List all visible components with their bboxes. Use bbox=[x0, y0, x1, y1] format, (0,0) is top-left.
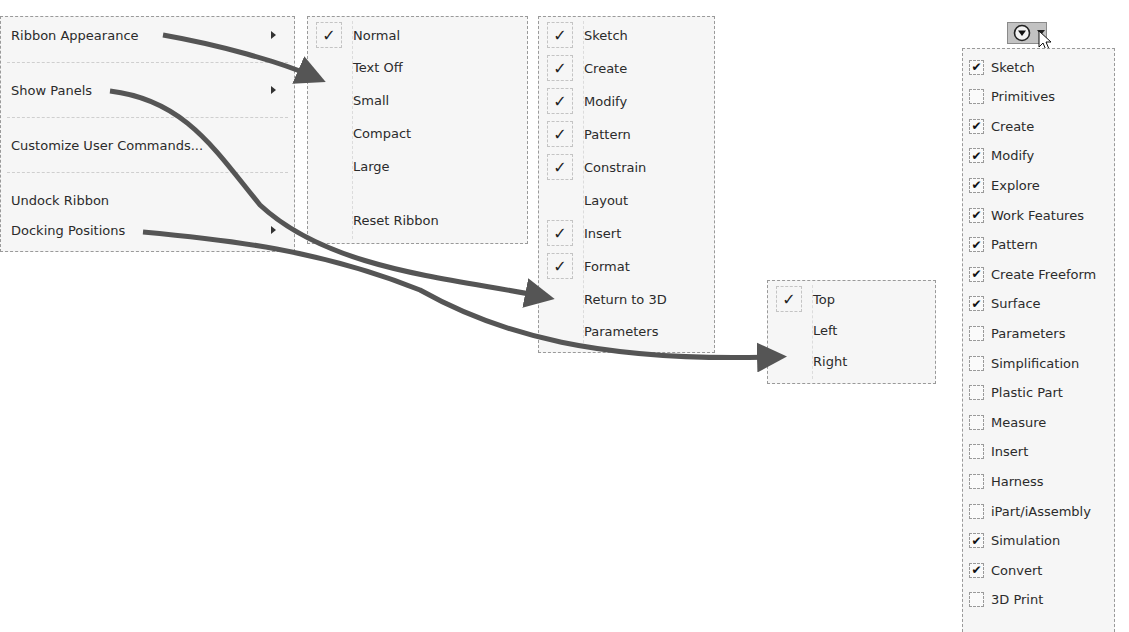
panel-toggle-item[interactable]: ✔Sketch bbox=[963, 55, 1114, 79]
checkbox-checked-icon[interactable]: ✔ bbox=[969, 119, 984, 134]
submenu-arrow-icon bbox=[271, 226, 276, 234]
panel-toggle-item[interactable]: Insert bbox=[963, 440, 1114, 464]
menu-item-label: Insert bbox=[584, 226, 621, 241]
menu-item-label: Left bbox=[813, 323, 837, 338]
panel-toggle-item[interactable]: ✔Convert bbox=[963, 558, 1114, 582]
menu-item-label: Top bbox=[813, 292, 835, 307]
checkbox-checked-icon[interactable]: ✔ bbox=[969, 148, 984, 163]
menu-item-undock-ribbon[interactable]: Undock Ribbon bbox=[1, 188, 294, 212]
checkbox-unchecked-icon[interactable] bbox=[969, 504, 984, 519]
menu-item-reset-ribbon[interactable]: Reset Ribbon bbox=[308, 208, 527, 232]
menu-item-label: Layout bbox=[584, 193, 628, 208]
panel-toggle-label: Measure bbox=[991, 415, 1046, 430]
panel-toggle-item[interactable]: 3D Print bbox=[963, 588, 1114, 612]
circle-down-arrow-icon bbox=[1013, 24, 1031, 42]
menu-item-constrain[interactable]: Constrain bbox=[539, 155, 714, 179]
panel-visibility-dropdown: ✔SketchPrimitives✔Create✔Modify✔Explore✔… bbox=[962, 48, 1115, 632]
panel-toggle-label: Create Freeform bbox=[991, 267, 1096, 282]
menu-item-compact[interactable]: Compact bbox=[308, 121, 527, 145]
menu-item-format[interactable]: Format bbox=[539, 254, 714, 278]
panel-toggle-item[interactable]: Parameters bbox=[963, 321, 1114, 345]
menu-item-return-to-3d[interactable]: Return to 3D bbox=[539, 287, 714, 311]
menu-item-label: Ribbon Appearance bbox=[11, 28, 139, 43]
checkbox-checked-icon[interactable]: ✔ bbox=[969, 237, 984, 252]
ribbon-appearance-submenu: ✓ Normal Text Off Small Compact Large Re… bbox=[307, 16, 528, 244]
panel-toggle-label: Parameters bbox=[991, 326, 1065, 341]
panel-toggle-label: 3D Print bbox=[991, 592, 1043, 607]
panel-toggle-label: Sketch bbox=[991, 60, 1035, 75]
panel-toggle-item[interactable]: Harness bbox=[963, 469, 1114, 493]
menu-item-label: Parameters bbox=[584, 324, 658, 339]
panel-toggle-item[interactable]: Measure bbox=[963, 410, 1114, 434]
panel-toggle-item[interactable]: Simplification bbox=[963, 351, 1114, 375]
menu-item-left[interactable]: Left bbox=[768, 318, 935, 342]
menu-item-label: Customize User Commands... bbox=[11, 138, 203, 153]
checkbox-unchecked-icon[interactable] bbox=[969, 89, 984, 104]
checkbox-unchecked-icon[interactable] bbox=[969, 444, 984, 459]
panel-toggle-item[interactable]: ✔Simulation bbox=[963, 529, 1114, 553]
panel-toggle-label: Insert bbox=[991, 444, 1028, 459]
menu-item-large[interactable]: Large bbox=[308, 154, 527, 178]
menu-separator bbox=[7, 117, 288, 118]
checkbox-unchecked-icon[interactable] bbox=[969, 326, 984, 341]
menu-item-layout[interactable]: Layout bbox=[539, 188, 714, 212]
menu-item-sketch[interactable]: Sketch bbox=[539, 23, 714, 47]
checkbox-unchecked-icon[interactable] bbox=[969, 474, 984, 489]
panel-toggle-label: Create bbox=[991, 119, 1034, 134]
checkbox-checked-icon[interactable]: ✔ bbox=[969, 60, 984, 75]
menu-item-label: Show Panels bbox=[11, 83, 92, 98]
menu-item-label: Compact bbox=[353, 126, 411, 141]
menu-item-label: Modify bbox=[584, 94, 627, 109]
checkbox-unchecked-icon[interactable] bbox=[969, 356, 984, 371]
panel-toggle-item[interactable]: ✔Pattern bbox=[963, 233, 1114, 257]
panel-toggle-item[interactable]: ✔Modify bbox=[963, 144, 1114, 168]
menu-item-parameters[interactable]: Parameters bbox=[539, 319, 714, 343]
menu-item-label: Format bbox=[584, 259, 630, 274]
menu-item-label: Return to 3D bbox=[584, 292, 667, 307]
panel-toggle-item[interactable]: ✔Work Features bbox=[963, 203, 1114, 227]
panel-toggle-label: Surface bbox=[991, 296, 1041, 311]
checkbox-unchecked-icon[interactable] bbox=[969, 592, 984, 607]
menu-item-customize-user-commands[interactable]: Customize User Commands... bbox=[1, 133, 294, 157]
panel-toggle-item[interactable]: iPart/iAssembly bbox=[963, 499, 1114, 523]
checkbox-unchecked-icon[interactable] bbox=[969, 385, 984, 400]
menu-item-top[interactable]: Top bbox=[768, 287, 935, 311]
menu-item-modify[interactable]: Modify bbox=[539, 89, 714, 113]
menu-item-ribbon-appearance[interactable]: Ribbon Appearance bbox=[1, 23, 294, 47]
checkbox-checked-icon[interactable]: ✔ bbox=[969, 563, 984, 578]
checkbox-checked-icon[interactable]: ✔ bbox=[969, 296, 984, 311]
checkbox-checked-icon[interactable]: ✔ bbox=[969, 208, 984, 223]
panel-toggle-label: Simplification bbox=[991, 356, 1079, 371]
show-panels-submenu: ✓ ✓ ✓ ✓ ✓ ✓ ✓ Sketch Create Modify Patte… bbox=[538, 16, 715, 353]
panel-toggle-label: Explore bbox=[991, 178, 1040, 193]
menu-item-text-off[interactable]: Text Off bbox=[308, 55, 527, 79]
menu-separator bbox=[7, 172, 288, 173]
panel-toggle-label: iPart/iAssembly bbox=[991, 504, 1091, 519]
menu-item-label: Large bbox=[353, 159, 390, 174]
panel-toggle-item[interactable]: ✔Create Freeform bbox=[963, 262, 1114, 286]
menu-item-insert[interactable]: Insert bbox=[539, 221, 714, 245]
menu-item-label: Right bbox=[813, 354, 847, 369]
submenu-arrow-icon bbox=[271, 31, 276, 39]
panel-toggle-item[interactable]: Primitives bbox=[963, 85, 1114, 109]
panel-toggle-item[interactable]: ✔Surface bbox=[963, 292, 1114, 316]
panel-toggle-item[interactable]: Plastic Part bbox=[963, 381, 1114, 405]
panel-toggle-label: Simulation bbox=[991, 533, 1060, 548]
ribbon-context-menu: Ribbon Appearance Show Panels Customize … bbox=[0, 16, 295, 252]
menu-item-show-panels[interactable]: Show Panels bbox=[1, 78, 294, 102]
checkbox-checked-icon[interactable]: ✔ bbox=[969, 533, 984, 548]
menu-item-pattern[interactable]: Pattern bbox=[539, 122, 714, 146]
checkbox-checked-icon[interactable]: ✔ bbox=[969, 267, 984, 282]
checkbox-unchecked-icon[interactable] bbox=[969, 415, 984, 430]
menu-item-normal[interactable]: Normal bbox=[308, 23, 527, 47]
menu-item-small[interactable]: Small bbox=[308, 88, 527, 112]
menu-item-label: Text Off bbox=[353, 60, 403, 75]
panel-toggle-item[interactable]: ✔Create bbox=[963, 114, 1114, 138]
checkbox-checked-icon[interactable]: ✔ bbox=[969, 178, 984, 193]
panel-toggle-label: Pattern bbox=[991, 237, 1038, 252]
menu-item-right[interactable]: Right bbox=[768, 349, 935, 373]
menu-item-label: Sketch bbox=[584, 28, 628, 43]
menu-item-docking-positions[interactable]: Docking Positions bbox=[1, 218, 294, 242]
menu-item-create[interactable]: Create bbox=[539, 56, 714, 80]
panel-toggle-item[interactable]: ✔Explore bbox=[963, 173, 1114, 197]
